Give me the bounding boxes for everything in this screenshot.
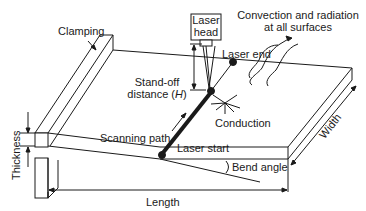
clamp xyxy=(35,35,113,198)
length-label: Length xyxy=(146,196,180,208)
standoff-symbol: H xyxy=(175,88,183,100)
conduction-arrows xyxy=(211,95,240,114)
plate xyxy=(48,50,352,182)
laser-start-label: Laser start xyxy=(177,142,229,154)
clamping-label: Clamping xyxy=(58,25,104,37)
conduction-label: Conduction xyxy=(215,117,271,129)
laser-head-line1: Laser xyxy=(191,14,221,26)
standoff-line2: distance (H) xyxy=(124,88,190,100)
convection-line2: at all surfaces xyxy=(228,21,366,33)
standoff-label: Stand-off distance (H) xyxy=(124,76,190,100)
laser-end-label: Laser end xyxy=(222,48,271,60)
scanning-path-label: Scanning path xyxy=(100,132,170,144)
thickness-label: Thickness xyxy=(10,130,22,180)
standoff-line1: Stand-off xyxy=(124,76,190,88)
convection-label: Convection and radiation at all surfaces xyxy=(228,9,366,33)
laser-head-line2: head xyxy=(191,26,221,38)
convection-line1: Convection and radiation xyxy=(228,9,366,21)
thickness-dimension xyxy=(20,112,35,167)
bend-angle-label: Bend angle xyxy=(232,161,288,173)
laser-head-label: Laser head xyxy=(191,14,221,38)
